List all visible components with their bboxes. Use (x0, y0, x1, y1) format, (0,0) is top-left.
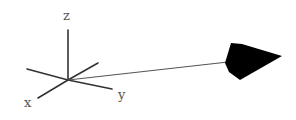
x-axis (38, 80, 68, 98)
y-axis (68, 80, 112, 89)
arrowhead-icon (225, 43, 282, 80)
neg-x-axis (27, 69, 68, 80)
vector-diagram: z x y (0, 0, 296, 120)
x-axis-label: x (24, 95, 32, 110)
y-axis-label: y (117, 87, 126, 102)
diagram-canvas: z x y (0, 0, 296, 120)
vector-shaft (68, 62, 228, 80)
z-axis-label: z (63, 8, 70, 23)
